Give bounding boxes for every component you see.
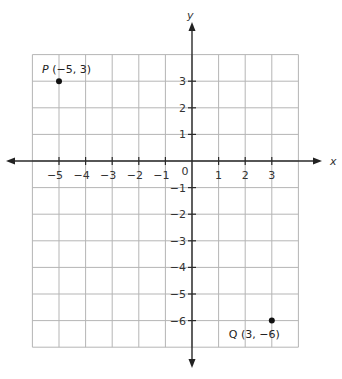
tick-labels: −5−4−3−2−1123321−1−2−3−4−5−60 [47, 75, 275, 327]
x-tick-label: −2 [127, 169, 143, 182]
x-tick-label: 1 [215, 169, 222, 182]
coordinate-plane: xy −5−4−3−2−1123321−1−2−3−4−5−60 P (−5, … [0, 0, 342, 379]
y-tick-label: −1 [170, 182, 186, 195]
point-P [56, 78, 62, 84]
y-tick-label: −4 [170, 261, 186, 274]
point-Q [269, 318, 275, 324]
y-tick-label: −3 [170, 235, 186, 248]
x-tick-label: 3 [268, 169, 275, 182]
x-tick-label: 2 [242, 169, 249, 182]
x-tick-label: −1 [153, 169, 169, 182]
x-axis-left-arrow-icon [6, 158, 15, 165]
x-axis-label: x [329, 155, 337, 168]
y-tick-label: −2 [170, 208, 186, 221]
grid-lines [32, 55, 298, 348]
y-tick-label: −6 [170, 315, 186, 328]
x-axis-right-arrow-icon [313, 158, 322, 165]
point-label-P: P (−5, 3) [42, 63, 91, 76]
point-label-Q: Q (3, −6) [229, 328, 280, 341]
origin-label: 0 [182, 165, 189, 178]
x-tick-label: −3 [100, 169, 116, 182]
x-tick-label: −4 [73, 169, 89, 182]
data-points: P (−5, 3)Q (3, −6) [42, 63, 280, 340]
y-axis-down-arrow-icon [189, 359, 196, 368]
y-tick-label: −5 [170, 288, 186, 301]
y-axis-label: y [186, 9, 194, 22]
y-axis-up-arrow-icon [189, 22, 196, 31]
y-tick-label: 1 [179, 128, 186, 141]
y-tick-label: 2 [179, 102, 186, 115]
x-tick-label: −5 [47, 169, 63, 182]
y-tick-label: 3 [179, 75, 186, 88]
